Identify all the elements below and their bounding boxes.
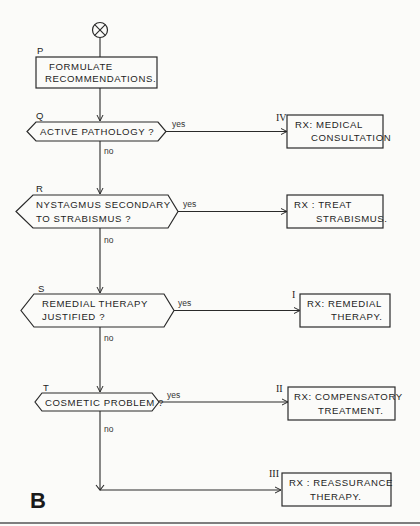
process-text-line-1: FORMULATE (49, 61, 113, 72)
no-label-t: no (104, 424, 114, 434)
outcome-remedial-therapy: I RX: REMEDIAL THERAPY. (292, 289, 390, 327)
roman-numeral-iii: III (269, 468, 279, 479)
process-box-p: P FORMULATE RECOMMENDATIONS. (36, 45, 157, 88)
no-label-r: no (104, 235, 114, 245)
decision-s-text-line-1: REMEDIAL THERAPY (42, 298, 148, 309)
roman-numeral-iv: IV (276, 112, 287, 123)
outcome-text-line-2: STRABISMUS. (316, 213, 388, 224)
outcome-text-line-1: RX : TREAT (294, 199, 352, 210)
node-id-s: S (38, 283, 44, 294)
yes-label-q: yes (172, 119, 185, 129)
yes-label-r: yes (183, 199, 196, 209)
decision-s: S REMEDIAL THERAPY JUSTIFIED ? yes no (21, 283, 191, 343)
decision-s-text-line-2: JUSTIFIED ? (42, 311, 105, 322)
outcome-treat-strabismus: RX : TREAT STRABISMUS. (287, 195, 388, 228)
outcome-compensatory-treatment: II RX: COMPENSATORY TREATMENT. (276, 383, 403, 420)
decision-r-text-line-2: TO STRABISMUS ? (36, 213, 131, 224)
node-id-t: T (43, 382, 49, 393)
outcome-text-line-1: RX: REMEDIAL (307, 298, 382, 309)
node-id-p: P (37, 45, 43, 56)
outcome-text-line-1: RX: MEDICAL (295, 119, 363, 130)
no-label-s: no (104, 333, 114, 343)
outcome-text-line-2: TREATMENT. (318, 405, 384, 416)
decision-r-text-line-1: NYSTAGMUS SECONDARY (36, 199, 171, 210)
outcome-text-line-2: CONSULTATION (311, 132, 391, 143)
decision-t-text: COSMETIC PROBLEM ? (45, 397, 164, 408)
outcome-medical-consultation: IV RX: MEDICAL CONSULTATION (276, 112, 391, 148)
process-text-line-2: RECOMMENDATIONS. (45, 73, 156, 84)
decision-q-text: ACTIVE PATHOLOGY ? (40, 126, 154, 137)
outcome-text-line-1: RX: COMPENSATORY (294, 391, 403, 402)
outcome-reassurance-therapy: III RX : REASSURANCE THERAPY. (269, 468, 393, 506)
node-id-r: R (36, 183, 43, 194)
decision-t: T COSMETIC PROBLEM ? yes no (35, 382, 180, 434)
figure-label: B (30, 488, 46, 513)
start-connector-icon (93, 23, 108, 38)
yes-label-t: yes (167, 390, 180, 400)
node-id-q: Q (36, 110, 43, 121)
roman-numeral-i: I (292, 289, 295, 300)
outcome-text-line-1: RX : REASSURANCE (289, 477, 393, 488)
outcome-text-line-2: THERAPY. (310, 491, 362, 502)
roman-numeral-ii: II (276, 383, 283, 394)
decision-q: Q ACTIVE PATHOLOGY ? yes no (27, 110, 185, 156)
yes-label-s: yes (178, 298, 191, 308)
flowchart: P FORMULATE RECOMMENDATIONS. Q ACTIVE PA… (0, 0, 420, 526)
outcome-text-line-2: THERAPY. (331, 311, 383, 322)
no-label-q: no (104, 146, 114, 156)
decision-r: R NYSTAGMUS SECONDARY TO STRABISMUS ? ye… (16, 183, 196, 245)
